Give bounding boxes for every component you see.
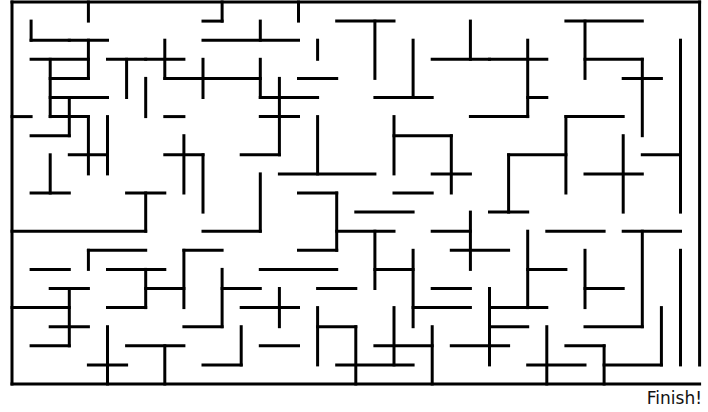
maze-board (0, 0, 708, 390)
finish-label: Finish! (647, 388, 702, 408)
